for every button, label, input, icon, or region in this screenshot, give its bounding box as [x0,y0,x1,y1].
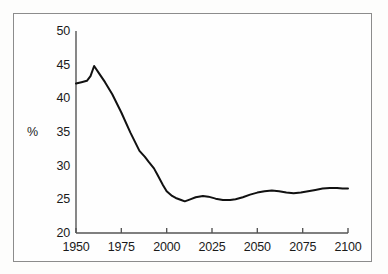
y-axis-tick-label-35: 35 [40,125,70,139]
x-axis-tick-label-2075: 2075 [289,240,316,254]
y-axis-tick-label-30: 30 [40,159,70,173]
y-axis-tick-label-40: 40 [40,91,70,105]
y-axis-unit-label: % [27,125,38,139]
x-axis-tick-label-2000: 2000 [153,240,180,254]
x-axis-tick-label-1975: 1975 [108,240,135,254]
y-axis-tick-label-45: 45 [40,58,70,72]
x-axis-tick-label-2050: 2050 [244,240,271,254]
x-axis-tick-label-2100: 2100 [334,240,361,254]
y-axis-tick-label-20: 20 [40,226,70,240]
y-axis-tick-label-50: 50 [40,24,70,38]
figure-root: % 20253035404550 19501975200020252050207… [0,0,388,274]
y-axis-tick-label-25: 25 [40,192,70,206]
x-axis-tick-label-1950: 1950 [62,240,89,254]
x-axis-tick-label-2025: 2025 [198,240,225,254]
